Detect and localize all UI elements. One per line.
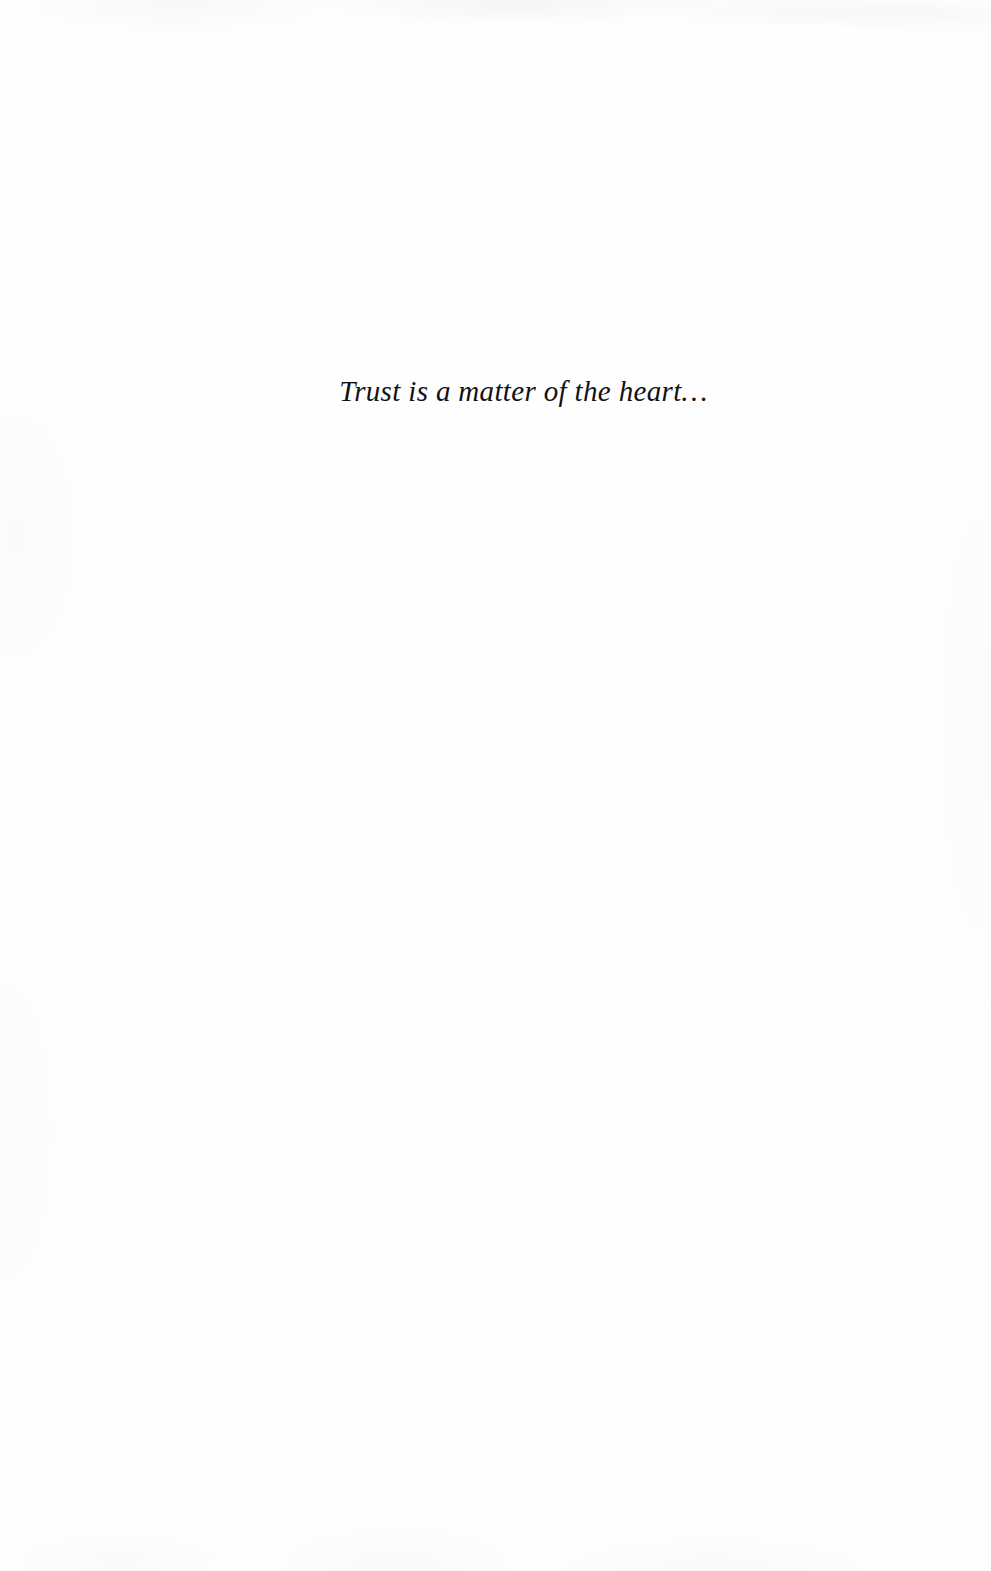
epigraph-block: Trust is a matter of the heart…: [0, 374, 991, 408]
scanned-page: Trust is a matter of the heart…: [0, 0, 991, 1571]
scan-speckle-overlay: [0, 0, 991, 1571]
epigraph-line: Trust is a matter of the heart…: [339, 374, 708, 408]
paper-texture-overlay: [0, 0, 991, 1571]
